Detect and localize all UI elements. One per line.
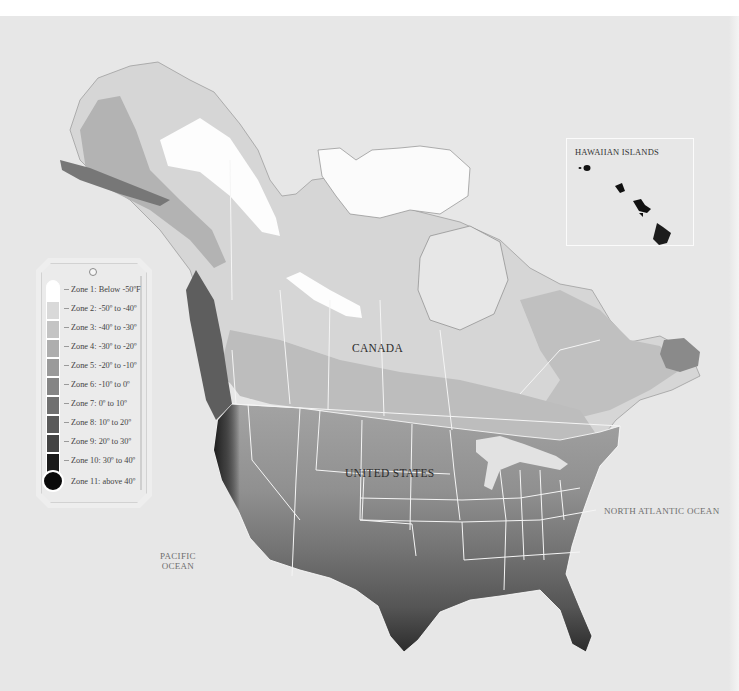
legend-zone-1-label: Zone 1: Below -50ºF <box>71 285 141 294</box>
label-united-states: UNITED STATES <box>345 467 435 479</box>
swatch-zone-8 <box>47 416 59 433</box>
thermometer-tube <box>46 280 60 480</box>
hawaii-inset: HAWAIIAN ISLANDS <box>566 138 694 246</box>
legend-zone-4-label: Zone 4: -30º to -20º <box>71 342 137 351</box>
swatch-zone-2 <box>47 302 59 319</box>
legend-zone-8: Zone 8: 10º to 20º <box>64 416 131 428</box>
label-pacific-ocean-line2: OCEAN <box>160 561 196 571</box>
legend-zone-4: Zone 4: -30º to -20º <box>64 340 137 352</box>
legend-zone-2-label: Zone 2: -50º to -40º <box>71 304 137 313</box>
swatch-zone-3 <box>47 321 59 338</box>
legend-zone-10-label: Zone 10: 30º to 40º <box>71 456 135 465</box>
legend-zone-7-label: Zone 7: 0º to 10º <box>71 399 127 408</box>
legend-zone-11: Zone 11: above 40º <box>64 475 135 487</box>
legend-zone-8-label: Zone 8: 10º to 20º <box>71 418 131 427</box>
label-pacific-ocean: PACIFIC OCEAN <box>160 551 196 571</box>
label-canada: CANADA <box>352 342 403 354</box>
legend-zone-10: Zone 10: 30º to 40º <box>64 454 135 466</box>
newfoundland <box>660 338 700 372</box>
swatch-zone-5 <box>47 359 59 376</box>
swatch-zone-9 <box>47 435 59 452</box>
legend-zone-1: Zone 1: Below -50ºF <box>64 283 141 295</box>
legend-zone-3-label: Zone 3: -40º to -30º <box>71 323 137 332</box>
legend-zone-5-label: Zone 5: -20º to -10º <box>71 361 137 370</box>
swatch-zone-4 <box>47 340 59 357</box>
hardiness-zone-legend: Zone 1: Below -50ºF Zone 2: -50º to -40º… <box>36 258 152 508</box>
legend-zone-11-label: Zone 11: above 40º <box>71 477 135 486</box>
label-north-atlantic-ocean: NORTH ATLANTIC OCEAN <box>604 506 719 516</box>
legend-zone-5: Zone 5: -20º to -10º <box>64 359 137 371</box>
label-pacific-ocean-line1: PACIFIC <box>160 551 196 561</box>
legend-zone-7: Zone 7: 0º to 10º <box>64 397 127 409</box>
us-west-coast-warm-band <box>214 404 300 570</box>
legend-zone-9: Zone 9: 20º to 30º <box>64 435 131 447</box>
hawaiian-islands-shapes <box>567 139 695 247</box>
legend-zone-6-label: Zone 6: -10º to 0º <box>71 380 130 389</box>
swatch-zone-11-bulb <box>42 470 64 492</box>
swatch-zone-7 <box>47 397 59 414</box>
legend-zone-9-label: Zone 9: 20º to 30º <box>71 437 131 446</box>
legend-zone-3: Zone 3: -40º to -30º <box>64 321 137 333</box>
swatch-zone-6 <box>47 378 59 395</box>
swatch-zone-1 <box>47 281 59 300</box>
legend-zone-6: Zone 6: -10º to 0º <box>64 378 130 390</box>
legend-zone-2: Zone 2: -50º to -40º <box>64 302 137 314</box>
